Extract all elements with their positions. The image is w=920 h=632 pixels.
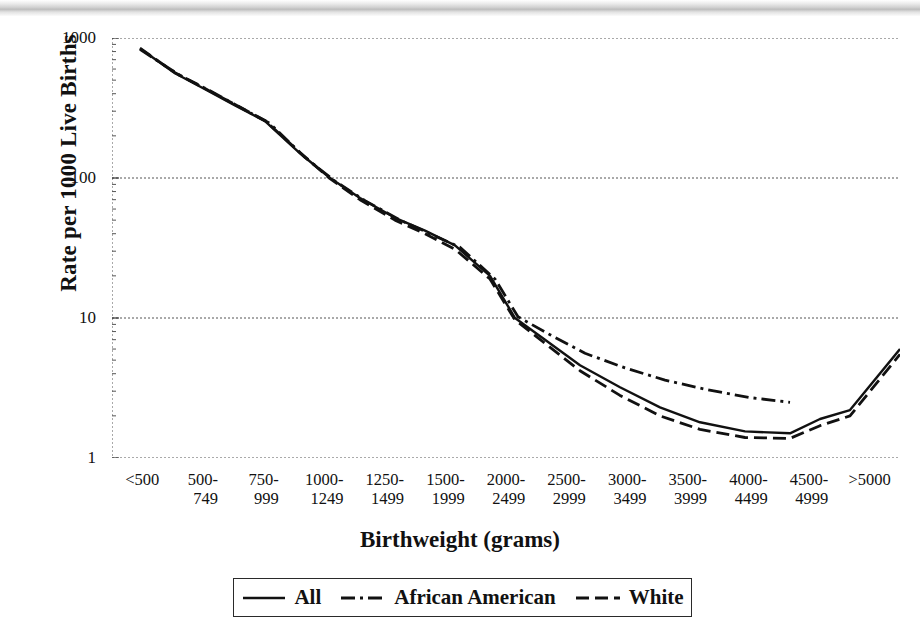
legend-item-white: White bbox=[565, 585, 693, 610]
series-line-african-american bbox=[140, 49, 790, 402]
x-tick-label: 750-999 bbox=[248, 470, 278, 508]
x-tick-label: 2000-2499 bbox=[487, 470, 526, 508]
y-tick-100: 100 bbox=[71, 168, 97, 188]
x-tick-label: 1500-1999 bbox=[426, 470, 465, 508]
x-tick-label: 1250-1499 bbox=[366, 470, 405, 508]
legend-swatch-dashed-icon bbox=[574, 592, 622, 604]
y-tick-1: 1 bbox=[88, 448, 97, 468]
y-tick-1000: 1000 bbox=[62, 28, 96, 48]
x-tick-label: 4000-4499 bbox=[729, 470, 768, 508]
legend-label: All bbox=[294, 585, 321, 610]
x-tick-label: 4500-4999 bbox=[790, 470, 829, 508]
x-tick-label: 1000-1249 bbox=[305, 470, 344, 508]
plot-svg bbox=[112, 38, 900, 458]
legend-item-african-american: African American bbox=[330, 585, 565, 610]
legend-swatch-dash-dot-icon bbox=[339, 592, 387, 604]
plot-area bbox=[112, 38, 900, 458]
line-chart: Rate per 1000 Live Births 1000100101 <50… bbox=[0, 0, 920, 632]
legend-item-all: All bbox=[232, 585, 330, 610]
chart-legend: AllAfrican AmericanWhite bbox=[233, 578, 692, 617]
x-axis-tick-labels: <500500-749750-9991000-12491250-14991500… bbox=[112, 470, 900, 516]
x-axis-title: Birthweight (grams) bbox=[0, 527, 920, 553]
series-line-white bbox=[140, 48, 900, 438]
series-line-all bbox=[140, 49, 900, 434]
y-tick-10: 10 bbox=[79, 308, 96, 328]
x-tick-label: 3000-3499 bbox=[608, 470, 647, 508]
legend-swatch-solid-icon bbox=[241, 592, 287, 604]
legend-label: White bbox=[629, 585, 684, 610]
x-tick-label: <500 bbox=[125, 470, 159, 489]
x-tick-label: 3500-3999 bbox=[669, 470, 708, 508]
x-tick-label: 500-749 bbox=[188, 470, 218, 508]
legend-label: African American bbox=[394, 585, 556, 610]
x-tick-label: 2500-2999 bbox=[547, 470, 586, 508]
x-tick-label: >5000 bbox=[849, 470, 891, 489]
